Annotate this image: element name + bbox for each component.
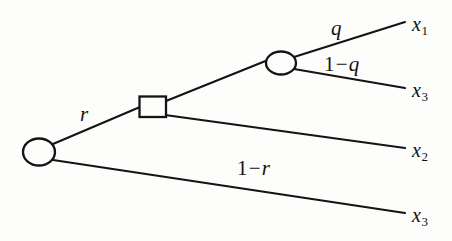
outcome-x2-subscript: 2 [421,149,428,164]
outcome-label-x1: x1 [412,14,427,34]
one-minus-q-numeral: 1 [324,52,335,76]
outcome-label-x3-upper: x3 [412,80,427,100]
root-chance-node[interactable] [23,139,55,166]
edge-label-q: q [331,18,342,39]
outcome-x3-lower-base: x [412,204,421,226]
game-tree-figure: r 1−r q 1−q x1 x3 x2 x3 [0,0,452,241]
tree-diagram-svg [0,0,452,241]
outcome-label-x3-lower: x3 [412,205,427,225]
outcome-x3-upper-subscript: 3 [421,89,428,104]
edge-root-to-x3-lower [53,160,405,213]
decision-node[interactable] [140,97,167,118]
edge-label-r-text: r [80,102,88,126]
one-minus-r-variable: r [262,156,270,180]
edge-root-to-decision [53,107,140,144]
one-minus-q-operator: − [335,52,349,76]
outcome-label-x2: x2 [412,140,427,160]
edge-decision-to-upper [166,60,268,101]
outcome-x3-lower-subscript: 3 [421,214,428,229]
edge-decision-to-x2 [165,115,405,148]
outcome-x3-upper-base: x [412,79,421,101]
one-minus-q-variable: q [349,52,360,76]
edge-label-q-text: q [331,16,342,40]
one-minus-r-numeral: 1 [237,156,248,180]
upper-chance-node[interactable] [266,52,296,75]
outcome-x1-base: x [412,13,421,35]
outcome-x2-base: x [412,139,421,161]
one-minus-r-operator: − [248,156,262,180]
outcome-x1-subscript: 1 [421,23,428,38]
edge-label-r: r [80,104,88,125]
edge-label-one-minus-r: 1−r [237,158,270,179]
edge-label-one-minus-q: 1−q [324,54,359,75]
